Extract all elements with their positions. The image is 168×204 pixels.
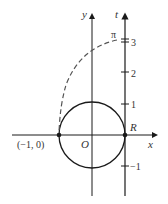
tick-label-1: 1 bbox=[131, 99, 136, 110]
unit-circle-wrapping-diagram: y t x O π 3 2 1 −1 (−1, 0) R bbox=[0, 0, 168, 204]
tick-label-3: 3 bbox=[131, 37, 136, 48]
pi-label: π bbox=[111, 29, 116, 40]
tick-label-neg-1: −1 bbox=[130, 161, 141, 172]
point-negative-one-zero bbox=[57, 133, 62, 138]
x-axis-label: x bbox=[147, 138, 153, 150]
point-r bbox=[123, 133, 128, 138]
point-left-label: (−1, 0) bbox=[17, 139, 44, 151]
wrapping-dashed-curve bbox=[59, 40, 117, 133]
point-r-label: R bbox=[129, 121, 137, 133]
t-axis-label: t bbox=[115, 8, 119, 20]
tick-label-2: 2 bbox=[131, 68, 136, 79]
y-axis-label: y bbox=[81, 8, 87, 20]
origin-label: O bbox=[81, 138, 89, 150]
